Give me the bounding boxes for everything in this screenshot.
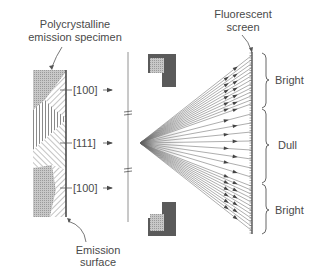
specimen-label-line2: emission specimen [28,31,122,43]
specimen-pointer [52,47,62,67]
ray-arrowhead-icon [232,95,237,99]
direction-labels: [100] [111] [100] [60,84,112,194]
ray-arrowhead-icon [224,146,229,150]
ray-arrowhead-icon [223,174,228,177]
ray-arrowhead-icon [232,181,237,185]
screen-label: Fluorescent screen [214,8,271,53]
bracket-icon [262,53,269,108]
ray-arrowhead-icon [232,201,237,205]
ray-arrowhead-icon [232,81,237,85]
surface-label-line1: Emission [76,244,121,256]
zone-bright-top: Bright [262,53,304,108]
ray-arrowhead-icon [232,155,237,159]
direction-text: [111] [73,137,96,149]
aperture-bottom [148,202,176,236]
ray-arrowhead-icon [224,180,229,184]
direction-label-top: [100] [60,84,112,96]
specimen-pointer-arrowhead-icon [49,65,54,70]
aperture-top [148,54,176,87]
brightness-zones: Bright Dull Bright [262,53,304,234]
ray-arrowhead-icon [232,88,237,92]
ray-arrowhead-icon [224,160,229,164]
ray-arrowhead-icon [232,188,237,192]
crossover-shading [140,113,185,173]
ray-arrowhead-icon [232,125,237,129]
zone-label: Bright [275,74,304,86]
screen-label-line2: screen [226,21,259,33]
ray-arrowhead-icon [232,170,237,173]
zone-bright-bottom: Bright [262,184,304,234]
ray-arrowhead-icon [224,119,229,122]
field-emission-diagram: Polycrystalline emission specimen [100] … [0,0,316,269]
ray-arrowhead-icon [224,133,229,137]
specimen-label-line1: Polycrystalline [40,18,110,30]
direction-text: [100] [73,84,97,96]
screen-pointer [242,35,251,50]
ray-arrowhead-icon [233,140,238,144]
screen-label-line1: Fluorescent [214,8,271,20]
zone-label: Dull [278,139,297,151]
ray-arrowhead-icon [223,109,228,112]
direction-label-middle: [111] [60,137,112,149]
ray-arrowhead-icon [232,109,237,112]
direction-label-bottom: [100] [60,182,112,194]
diagram-stage: Polycrystalline emission specimen [100] … [0,0,316,269]
electron-ray [140,143,251,218]
zone-dull: Dull [262,109,297,183]
electron-ray [140,68,251,143]
fluorescent-screen [250,52,253,234]
bracket-icon [262,109,269,183]
specimen-label: Polycrystalline emission specimen [28,18,122,70]
surface-label-line2: surface [80,256,116,268]
ray-arrowhead-icon [232,102,237,106]
direction-text: [100] [73,182,97,194]
ray-arrowhead-icon [224,102,229,106]
emission-surface-label: Emission surface [67,218,120,268]
ray-arrowhead-icon [232,194,237,198]
bracket-icon [262,184,269,234]
axis-line [124,52,132,222]
surface-pointer [68,221,86,242]
polycrystalline-specimen [33,70,66,217]
zone-label: Bright [275,204,304,216]
